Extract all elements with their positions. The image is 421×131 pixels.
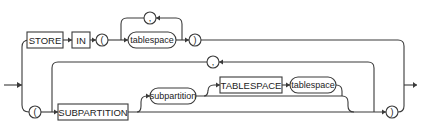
in-keyword: IN xyxy=(76,35,86,46)
entry-arrow xyxy=(4,82,22,88)
store-keyword: STORE xyxy=(29,35,62,46)
exit-arrow xyxy=(404,82,417,88)
subpartition-keyword: SUBPARTITION xyxy=(58,107,127,118)
tablespace-item: tablespace xyxy=(130,35,174,45)
bottom-branch: ( , SUBPARTITION subpartition TABLESPACE… xyxy=(29,56,404,120)
comma-separator: , xyxy=(149,13,152,23)
close-paren-bottom: ) xyxy=(391,107,394,117)
subpartition-item: subpartition xyxy=(150,91,197,101)
open-paren-bottom: ( xyxy=(34,107,37,117)
top-branch: STORE IN ( , tablespace ) xyxy=(27,12,404,85)
tablespace-value: tablespace xyxy=(291,80,335,90)
syntax-diagram: STORE IN ( , tablespace ) ( xyxy=(0,0,421,131)
open-paren: ( xyxy=(101,35,104,45)
comma-separator-bottom: , xyxy=(212,57,215,67)
branch-bottom-connector xyxy=(22,85,29,112)
close-paren: ) xyxy=(194,35,197,45)
tablespace-keyword: TABLESPACE xyxy=(221,80,282,91)
